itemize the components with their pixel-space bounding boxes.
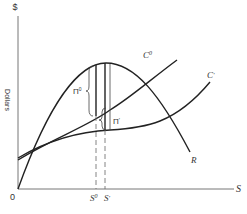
y-axis-title: Dollars xyxy=(4,89,11,111)
x-axis-label: S xyxy=(236,183,241,194)
profit-0-brace xyxy=(86,66,93,116)
s1-label: S′ xyxy=(104,193,111,203)
profit-1-label: Π′ xyxy=(113,117,121,126)
profit-diagram: $ Dollars S 0 Π0 Π′ C0 C′ R S0 S′ xyxy=(0,0,247,214)
cost-curve-0 xyxy=(18,60,177,160)
revenue-curve-label: R xyxy=(190,155,197,165)
revenue-curve xyxy=(18,63,190,189)
origin-label: 0 xyxy=(10,192,15,202)
cost-curve-0-label: C0 xyxy=(143,50,152,60)
cost-curve-1-label: C′ xyxy=(207,70,215,80)
y-axis-symbol: $ xyxy=(12,2,17,12)
profit-0-label: Π0 xyxy=(73,86,82,96)
s0-label: S0 xyxy=(90,193,98,203)
